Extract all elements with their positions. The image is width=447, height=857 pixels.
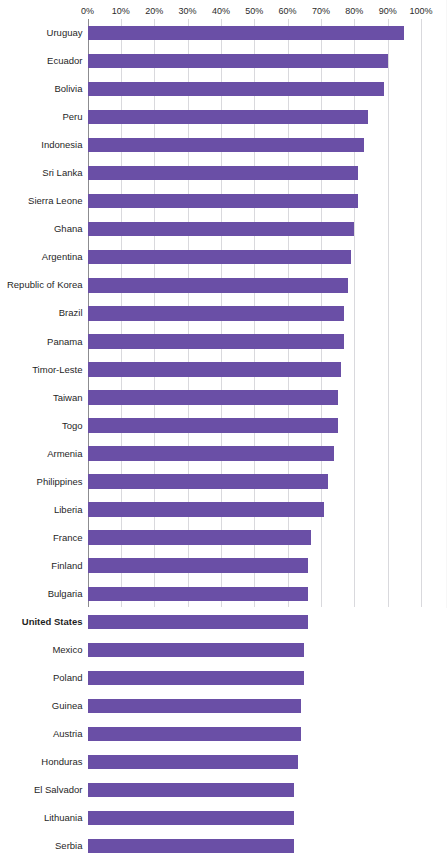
category-label-philippines: Philippines	[37, 468, 83, 496]
bar-togo	[88, 418, 338, 433]
bar-track	[88, 636, 422, 664]
bar-row: Lithuania	[0, 804, 447, 832]
bar-sri-lanka	[88, 166, 358, 181]
bar-row: Republic of Korea	[0, 271, 447, 299]
bar-row: Honduras	[0, 748, 447, 776]
bar-track	[88, 103, 422, 131]
bar-row: Uruguay	[0, 19, 447, 47]
category-label-serbia: Serbia	[55, 832, 82, 857]
bar-timor-leste	[88, 362, 341, 377]
bar-track	[88, 299, 422, 327]
bar-track	[88, 580, 422, 608]
bar-row: United States	[0, 608, 447, 636]
category-label-brazil: Brazil	[59, 299, 83, 327]
bar-track	[88, 524, 422, 552]
bar-brazil	[88, 306, 345, 321]
x-axis-tick-20: 20%	[145, 5, 163, 18]
bar-row: Argentina	[0, 243, 447, 271]
bar-track	[88, 328, 422, 356]
bar-track	[88, 496, 422, 524]
bar-austria	[88, 727, 301, 742]
bar-row: Sierra Leone	[0, 187, 447, 215]
bar-track	[88, 832, 422, 857]
bar-row: Austria	[0, 720, 447, 748]
bar-row: Brazil	[0, 299, 447, 327]
bar-mexico	[88, 643, 305, 658]
category-label-poland: Poland	[53, 664, 83, 692]
category-label-ecuador: Ecuador	[47, 47, 82, 75]
category-label-argentina: Argentina	[42, 243, 83, 271]
category-label-panama: Panama	[47, 328, 82, 356]
bar-uruguay	[88, 26, 405, 41]
x-axis-tick-80: 80%	[345, 5, 363, 18]
bar-track	[88, 356, 422, 384]
bar-ecuador	[88, 54, 388, 69]
category-label-sri-lanka: Sri Lanka	[42, 159, 82, 187]
bar-row: Bulgaria	[0, 580, 447, 608]
bar-france	[88, 530, 311, 545]
category-label-mexico: Mexico	[52, 636, 82, 664]
bar-row: Peru	[0, 103, 447, 131]
bar-row: Mexico	[0, 636, 447, 664]
bar-serbia	[88, 839, 295, 854]
bar-track	[88, 804, 422, 832]
bar-taiwan	[88, 390, 338, 405]
bar-philippines	[88, 474, 328, 489]
bar-track	[88, 47, 422, 75]
category-label-finland: Finland	[51, 552, 82, 580]
bar-lithuania	[88, 811, 295, 826]
x-axis-tick-50: 50%	[245, 5, 263, 18]
x-axis-tick-70: 70%	[312, 5, 330, 18]
bar-track	[88, 692, 422, 720]
bar-bulgaria	[88, 587, 308, 602]
bar-sierra-leone	[88, 194, 358, 209]
bar-el-salvador	[88, 783, 295, 798]
category-label-austria: Austria	[53, 720, 83, 748]
bar-track	[88, 776, 422, 804]
bar-poland	[88, 671, 305, 686]
bar-row: Taiwan	[0, 384, 447, 412]
category-label-bolivia: Bolivia	[55, 75, 83, 103]
category-label-guinea: Guinea	[52, 692, 83, 720]
bar-track	[88, 608, 422, 636]
category-label-taiwan: Taiwan	[53, 384, 83, 412]
bar-indonesia	[88, 138, 365, 153]
bar-track	[88, 412, 422, 440]
bar-row: Ghana	[0, 215, 447, 243]
bar-ghana	[88, 222, 355, 237]
bar-row: Liberia	[0, 496, 447, 524]
bar-row: Ecuador	[0, 47, 447, 75]
bar-track	[88, 748, 422, 776]
bar-row: Poland	[0, 664, 447, 692]
x-axis-tick-labels: 0%10%20%30%40%50%60%70%80%90%100%	[0, 5, 447, 18]
bar-rows: UruguayEcuadorBoliviaPeruIndonesiaSri La…	[0, 19, 447, 608]
category-label-united-states: United States	[22, 608, 83, 636]
bar-armenia	[88, 446, 335, 461]
x-axis-tick-0: 0%	[81, 5, 94, 18]
bar-track	[88, 19, 422, 47]
bar-row: Sri Lanka	[0, 159, 447, 187]
bar-track	[88, 384, 422, 412]
bar-row: France	[0, 524, 447, 552]
category-label-republic-of-korea: Republic of Korea	[7, 271, 83, 299]
bar-bolivia	[88, 82, 385, 97]
bar-liberia	[88, 502, 325, 517]
x-axis-tick-30: 30%	[179, 5, 197, 18]
bar-row: Finland	[0, 552, 447, 580]
category-label-lithuania: Lithuania	[44, 804, 83, 832]
bar-track	[88, 440, 422, 468]
bar-row: Guinea	[0, 692, 447, 720]
bar-track	[88, 468, 422, 496]
bar-united-states	[88, 615, 308, 630]
category-label-ghana: Ghana	[54, 215, 83, 243]
category-label-el-salvador: El Salvador	[34, 776, 83, 804]
category-label-france: France	[53, 524, 83, 552]
bar-row: El Salvador	[0, 776, 447, 804]
category-label-indonesia: Indonesia	[41, 131, 82, 159]
bar-track	[88, 215, 422, 243]
bar-argentina	[88, 250, 351, 265]
x-axis-tick-40: 40%	[212, 5, 230, 18]
category-label-uruguay: Uruguay	[47, 19, 83, 47]
category-label-peru: Peru	[62, 103, 82, 131]
